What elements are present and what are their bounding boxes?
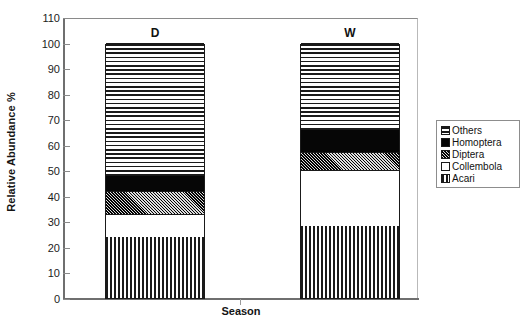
y-axis-tick-label: 100 <box>18 39 60 49</box>
y-axis-title: Relative Abundance % <box>5 72 17 232</box>
y-axis-tick <box>63 273 70 274</box>
y-axis-tick-label: 0 <box>18 294 60 304</box>
chart-legend: OthersHomopteraDipteraCollembolaAcari <box>436 120 520 188</box>
legend-swatch-acari <box>441 174 450 183</box>
legend-swatch-diptera <box>441 150 450 159</box>
y-axis-tick-label: 60 <box>18 141 60 151</box>
y-axis-tick-labels: 0102030405060708090100110 <box>12 0 60 325</box>
y-axis-tick <box>63 171 70 172</box>
chart-figure: 0102030405060708090100110 Relative Abund… <box>0 0 524 325</box>
y-axis-tick-label: 90 <box>18 64 60 74</box>
legend-swatch-homoptera <box>441 138 450 147</box>
legend-label: Diptera <box>452 149 484 160</box>
bar-segment-diptera[interactable] <box>106 191 204 214</box>
y-axis-line <box>63 18 65 300</box>
y-axis-tick <box>63 299 70 300</box>
legend-item[interactable]: Collembola <box>441 160 516 172</box>
bar-segment-collembola[interactable] <box>106 214 204 237</box>
bar-category-label: W <box>300 26 400 40</box>
bar-group: W <box>300 0 400 325</box>
y-axis-tick-label: 110 <box>18 13 60 23</box>
y-axis-tick-label: 30 <box>18 217 60 227</box>
y-axis-tick-label: 20 <box>18 243 60 253</box>
y-axis-tick-label: 10 <box>18 268 60 278</box>
y-axis-tick-label: 40 <box>18 192 60 202</box>
legend-label: Collembola <box>452 161 502 172</box>
bar-segment-acari[interactable] <box>106 237 204 298</box>
legend-item[interactable]: Others <box>441 124 516 136</box>
bar-category-label: D <box>105 26 205 40</box>
legend-label: Acari <box>452 173 475 184</box>
y-axis-tick <box>63 44 70 45</box>
legend-swatch-collembola <box>441 162 450 171</box>
bar-segment-others[interactable] <box>106 43 204 176</box>
y-axis-tick <box>63 69 70 70</box>
legend-swatch-others <box>441 126 450 135</box>
legend-item[interactable]: Acari <box>441 172 516 184</box>
y-axis-tick <box>63 95 70 96</box>
bar-segment-homoptera[interactable] <box>301 129 399 152</box>
y-axis-tick-label: 50 <box>18 166 60 176</box>
y-axis-tick <box>63 120 70 121</box>
bar-segment-homoptera[interactable] <box>106 175 204 190</box>
y-axis-tick <box>63 146 70 147</box>
bar-group: D <box>105 0 205 325</box>
legend-label: Others <box>452 125 482 136</box>
y-axis-tick <box>63 197 70 198</box>
legend-item[interactable]: Homoptera <box>441 136 516 148</box>
stacked-bar[interactable] <box>105 44 205 299</box>
y-axis-tick <box>63 222 70 223</box>
legend-item[interactable]: Diptera <box>441 148 516 160</box>
bar-segment-acari[interactable] <box>301 226 399 298</box>
bar-segment-collembola[interactable] <box>301 170 399 226</box>
y-axis-tick <box>63 248 70 249</box>
stacked-bar[interactable] <box>300 44 400 299</box>
y-axis-tick-label: 70 <box>18 115 60 125</box>
bar-segment-diptera[interactable] <box>301 152 399 170</box>
y-axis-tick-label: 80 <box>18 90 60 100</box>
legend-label: Homoptera <box>452 137 501 148</box>
y-axis-tick <box>63 18 70 19</box>
bar-segment-others[interactable] <box>301 43 399 130</box>
